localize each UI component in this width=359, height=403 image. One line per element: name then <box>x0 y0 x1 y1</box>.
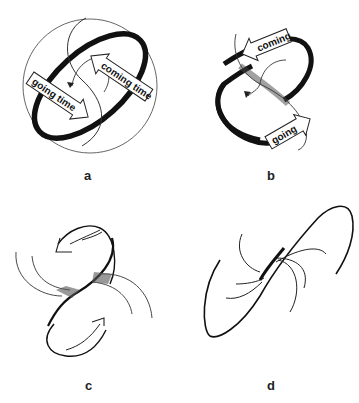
panel-label-b: b <box>267 168 275 183</box>
panel-d: d <box>180 200 359 403</box>
panel-label-c: c <box>85 378 92 393</box>
panel-b: coming going b <box>180 0 359 200</box>
panel-label-a: a <box>84 168 91 183</box>
panel-a: going time coming time a <box>0 0 180 200</box>
panel-label-d: d <box>267 378 275 393</box>
panel-c-drawing <box>0 200 180 403</box>
panel-d-drawing <box>180 200 359 403</box>
panel-c: c <box>0 200 180 403</box>
